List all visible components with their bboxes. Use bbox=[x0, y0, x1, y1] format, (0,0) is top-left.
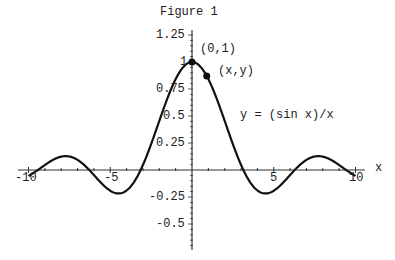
data-point-marker bbox=[189, 59, 196, 66]
x-tick-label: 10 bbox=[349, 172, 363, 184]
y-tick-label: 1.25 bbox=[156, 29, 185, 41]
y-tick-label: -0.5 bbox=[156, 218, 185, 230]
y-tick-label: 0.75 bbox=[156, 83, 185, 95]
x-tick-label: 5 bbox=[270, 172, 277, 184]
x-tick-label: -5 bbox=[104, 172, 118, 184]
equation-label: y = (sin x)/x bbox=[240, 109, 334, 121]
peak-point-label: (0,1) bbox=[200, 43, 236, 55]
plot-area bbox=[0, 0, 395, 260]
y-tick-label: 1 bbox=[180, 56, 187, 68]
y-tick-label: -0.25 bbox=[149, 191, 185, 203]
y-tick-label: 0.25 bbox=[156, 137, 185, 149]
general-point-label: (x,y) bbox=[218, 65, 254, 77]
y-tick-label: 0.5 bbox=[163, 110, 185, 122]
figure-title: Figure 1 bbox=[160, 6, 218, 18]
data-point-marker bbox=[203, 73, 210, 80]
x-tick-label: -10 bbox=[15, 172, 37, 184]
x-axis-label: x bbox=[375, 162, 382, 174]
